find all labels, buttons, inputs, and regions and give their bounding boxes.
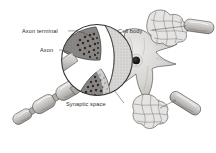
neuron-diagram: Axon terminal Axon Cell body Synaptic sp… <box>0 0 216 153</box>
nucleus <box>133 57 140 64</box>
diagram-canvas: Axon terminal Axon Cell body Synaptic sp… <box>0 0 216 153</box>
label-axon-terminal: Axon terminal <box>22 28 58 34</box>
label-cell-body: Cell body <box>118 28 142 34</box>
label-synaptic-space: Synaptic space <box>66 101 106 107</box>
label-axon: Axon <box>40 47 53 53</box>
